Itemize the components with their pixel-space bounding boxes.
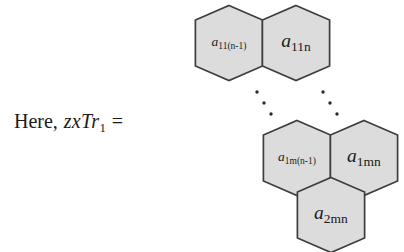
ellipsis-dot — [269, 112, 272, 115]
ellipsis-dots — [255, 90, 338, 115]
ellipsis-dot — [328, 101, 331, 104]
ellipsis-dot — [335, 112, 338, 115]
figure-canvas: Here,zxTr1= a11(n-1)a11na1m(n-1)a1mna2mn — [0, 0, 404, 252]
ellipsis-dot — [321, 90, 324, 93]
honeycomb-diagram: a11(n-1)a11na1m(n-1)a1mna2mn — [0, 0, 404, 252]
hexagon-cells: a11(n-1)a11na1m(n-1)a1mna2mn — [195, 6, 397, 252]
ellipsis-dot — [255, 90, 258, 93]
ellipsis-dot — [262, 101, 265, 104]
